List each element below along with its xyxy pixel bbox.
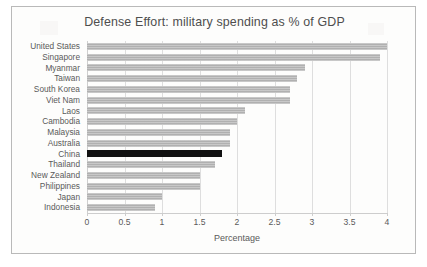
bar-row bbox=[87, 52, 387, 63]
gridline-4 bbox=[387, 41, 388, 213]
bar-singapore bbox=[87, 54, 380, 61]
bar-row bbox=[87, 170, 387, 181]
category-label-philippines: Philippines bbox=[12, 181, 83, 192]
category-label-united-states: United States bbox=[12, 41, 83, 52]
category-label-south-korea: South Korea bbox=[12, 84, 83, 95]
x-tick bbox=[87, 213, 88, 216]
bar-taiwan bbox=[87, 75, 297, 82]
bar-row bbox=[87, 138, 387, 149]
x-tick-label-0-5: 0.5 bbox=[119, 217, 131, 227]
category-label-thailand: Thailand bbox=[12, 159, 83, 170]
chart-title: Defense Effort: military spending as % o… bbox=[12, 15, 417, 29]
chart-frame: Defense Effort: military spending as % o… bbox=[11, 6, 416, 254]
x-tick bbox=[312, 213, 313, 216]
bar-laos bbox=[87, 107, 245, 114]
category-label-australia: Australia bbox=[12, 138, 83, 149]
x-tick bbox=[200, 213, 201, 216]
bar-row bbox=[87, 202, 387, 213]
bar-myanmar bbox=[87, 64, 305, 71]
bar-united-states bbox=[87, 43, 387, 50]
category-label-myanmar: Myanmar bbox=[12, 63, 83, 74]
bar-south-korea bbox=[87, 86, 290, 93]
x-tick-label-3-5: 3.5 bbox=[344, 217, 356, 227]
x-tick-label-2-5: 2.5 bbox=[269, 217, 281, 227]
bar-viet-nam bbox=[87, 97, 290, 104]
bar-malaysia bbox=[87, 129, 230, 136]
x-tick bbox=[387, 213, 388, 216]
x-tick bbox=[125, 213, 126, 216]
bar-row bbox=[87, 63, 387, 74]
x-tick bbox=[162, 213, 163, 216]
x-tick-label-3: 3 bbox=[310, 217, 315, 227]
category-label-taiwan: Taiwan bbox=[12, 73, 83, 84]
x-tick-label-4: 4 bbox=[385, 217, 390, 227]
bar-row bbox=[87, 41, 387, 52]
bar-row bbox=[87, 159, 387, 170]
bar-cambodia bbox=[87, 118, 237, 125]
x-tick-label-0: 0 bbox=[85, 217, 90, 227]
bar-row bbox=[87, 181, 387, 192]
category-label-laos: Laos bbox=[12, 106, 83, 117]
category-label-new-zealand: New Zealand bbox=[12, 170, 83, 181]
bar-philippines bbox=[87, 183, 200, 190]
x-axis-tick-labels: 00.511.522.533.54 bbox=[12, 217, 417, 231]
bar-row bbox=[87, 73, 387, 84]
category-label-malaysia: Malaysia bbox=[12, 127, 83, 138]
category-label-cambodia: Cambodia bbox=[12, 116, 83, 127]
category-label-china: China bbox=[12, 149, 83, 160]
bar-row bbox=[87, 149, 387, 160]
bar-row bbox=[87, 127, 387, 138]
bar-japan bbox=[87, 193, 162, 200]
plot-area bbox=[87, 41, 387, 213]
x-tick-label-1-5: 1.5 bbox=[194, 217, 206, 227]
x-tick bbox=[275, 213, 276, 216]
bar-row bbox=[87, 95, 387, 106]
bar-indonesia bbox=[87, 204, 155, 211]
bar-series bbox=[87, 41, 387, 213]
bar-thailand bbox=[87, 161, 215, 168]
category-axis-labels: United StatesSingaporeMyanmarTaiwanSouth… bbox=[12, 41, 83, 213]
x-tick-label-1: 1 bbox=[160, 217, 165, 227]
category-label-singapore: Singapore bbox=[12, 52, 83, 63]
category-label-japan: Japan bbox=[12, 192, 83, 203]
bar-new-zealand bbox=[87, 172, 200, 179]
x-tick bbox=[350, 213, 351, 216]
category-label-indonesia: Indonesia bbox=[12, 202, 83, 213]
bar-row bbox=[87, 106, 387, 117]
x-axis-title: Percentage bbox=[87, 233, 387, 243]
bar-china bbox=[87, 150, 222, 157]
category-label-viet-nam: Viet Nam bbox=[12, 95, 83, 106]
bar-row bbox=[87, 116, 387, 127]
x-tick bbox=[237, 213, 238, 216]
bar-australia bbox=[87, 140, 230, 147]
bar-row bbox=[87, 84, 387, 95]
x-tick-label-2: 2 bbox=[235, 217, 240, 227]
bar-row bbox=[87, 192, 387, 203]
